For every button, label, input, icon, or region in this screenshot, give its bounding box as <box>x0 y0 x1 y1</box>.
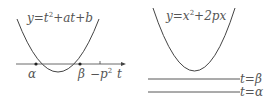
root-beta-label: β <box>77 67 85 81</box>
tick-label-minus-p-squared: −p2 <box>90 67 112 81</box>
left-graph: y=t2+at+b α β −p2 t <box>16 11 126 81</box>
t-axis-label: t <box>117 67 122 81</box>
root-beta-point <box>78 62 81 65</box>
t-axis-arrow-icon <box>121 62 126 66</box>
root-alpha-point <box>34 62 37 65</box>
diagram-canvas: y=t2+at+b α β −p2 t y=x2+2px t=β t=α <box>0 0 278 104</box>
root-alpha-label: α <box>28 67 36 81</box>
line-t-alpha-label: t=α <box>240 85 263 99</box>
left-equation: y=t2+at+b <box>26 11 93 25</box>
right-graph: y=x2+2px t=β t=α <box>148 8 263 99</box>
line-t-beta-label: t=β <box>240 72 262 86</box>
right-equation: y=x2+2px <box>165 9 226 23</box>
